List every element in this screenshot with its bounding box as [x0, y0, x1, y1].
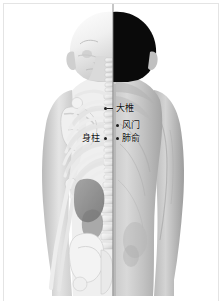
- acupoint-dazhui[interactable]: 大椎: [104, 104, 135, 113]
- leader-line: [107, 108, 113, 109]
- acupoint-feishu[interactable]: 肺俞: [116, 134, 141, 143]
- anatomy-illustration: [4, 4, 218, 296]
- anatomy-svg: [4, 4, 218, 296]
- acupoint-fengmen[interactable]: 风门: [116, 121, 141, 130]
- ilium-left: [69, 233, 104, 282]
- acupoint-label-shenzhu: 身柱: [82, 134, 101, 143]
- bottom-white-strip: [4, 296, 218, 304]
- figure-root: 大椎 风门 肺俞 身柱: [0, 0, 224, 308]
- acupoint-marker-dot: [116, 137, 119, 140]
- femur-head: [73, 277, 87, 291]
- acupoint-label-dazhui: 大椎: [116, 104, 135, 113]
- orbit: [82, 50, 92, 58]
- acupoint-shenzhu[interactable]: 身柱: [82, 134, 107, 143]
- acupoint-label-feishu: 肺俞: [122, 134, 141, 143]
- acupoint-marker-dot: [104, 137, 107, 140]
- acupoint-label-fengmen: 风门: [122, 121, 141, 130]
- acupoint-marker-dot: [116, 124, 119, 127]
